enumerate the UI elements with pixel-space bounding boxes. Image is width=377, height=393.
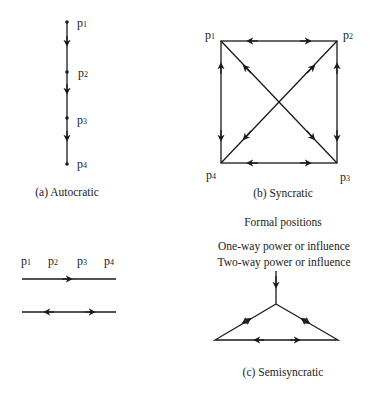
legend-position-p2: p2: [48, 255, 58, 269]
syncratic-node-p1: p1: [205, 29, 215, 43]
legend-position-p4: p4: [104, 255, 114, 269]
syncratic-network: [221, 41, 337, 163]
semisyncratic-network: [215, 271, 338, 340]
autocratic-node-p3: p3: [77, 114, 87, 128]
syncratic-caption: (b) Syncratic: [253, 187, 313, 199]
syncratic-node-p2: p2: [343, 29, 353, 43]
autocratic-caption: (a) Autocratic: [35, 186, 99, 198]
legend-position-p1: p1: [21, 255, 31, 269]
autocratic-node-p2: p2: [78, 67, 88, 81]
syncratic-node-p3: p3: [340, 171, 350, 185]
semisyncratic-caption: (c) Semisyncratic: [243, 366, 324, 378]
legend-position-p3: p3: [77, 255, 87, 269]
autocratic-node-p4: p4: [77, 158, 87, 172]
syncratic-node-p4: p4: [206, 169, 216, 183]
legend-two-way-label: Two-way power or influence: [218, 256, 351, 268]
legend-one-way-label: One-way power or influence: [218, 240, 350, 252]
autocratic-node-p1: p1: [77, 17, 87, 31]
legend-title: Formal positions: [244, 216, 322, 228]
